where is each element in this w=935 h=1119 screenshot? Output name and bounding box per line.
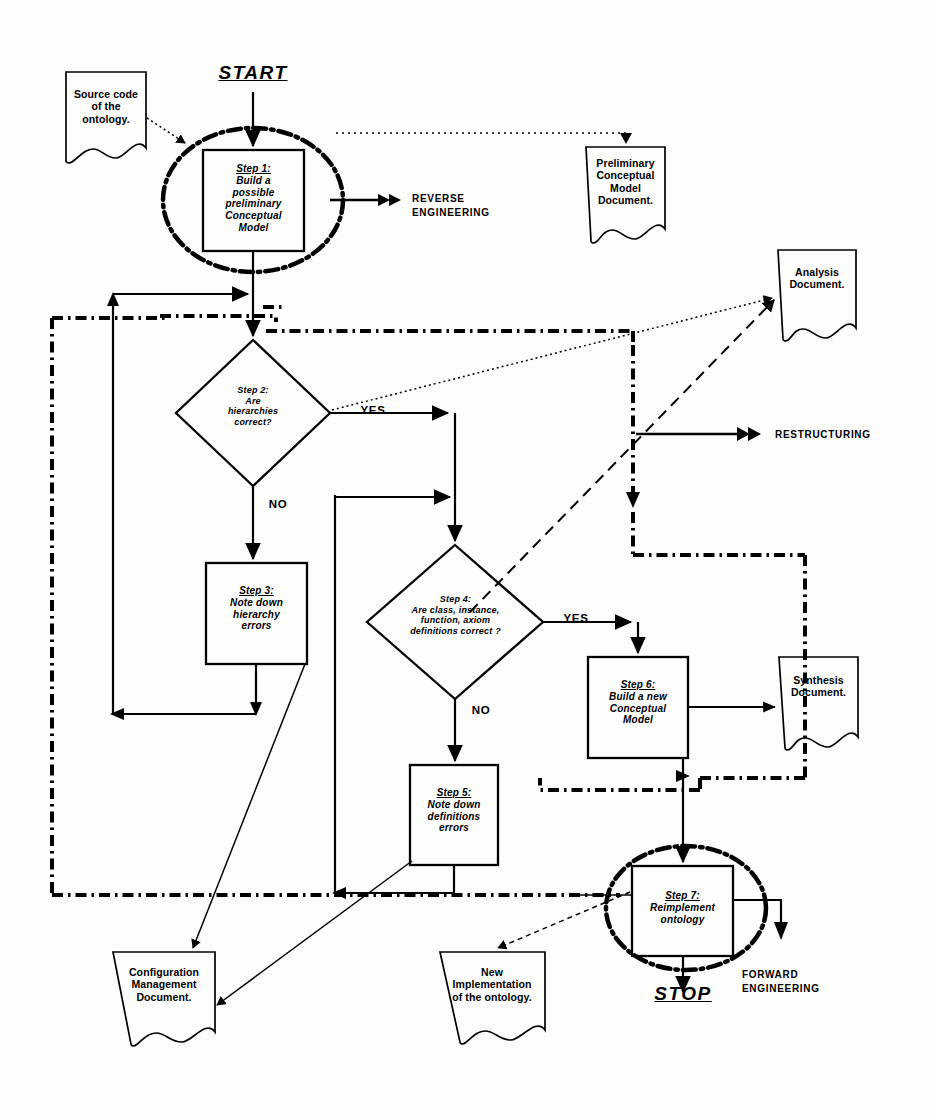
step2-heading: Step 2: — [237, 385, 268, 395]
step3-text: Step 3: Note down hierarchy errors — [206, 585, 307, 632]
link-step7-newimpl — [498, 892, 630, 948]
doc-synthesis — [779, 657, 858, 750]
branch-step2-yes: YES — [353, 404, 393, 418]
doc-source-code-text: Source code of the ontology. — [66, 88, 146, 125]
bus-top-main — [160, 316, 276, 322]
doc-new-implementation-text: New Implementation of the ontology. — [438, 966, 546, 1003]
start-label: START — [198, 62, 308, 84]
step7-body: Reimplement ontology — [650, 902, 715, 925]
step3-heading: Step 3: — [239, 585, 274, 596]
phase-restructuring: RESTRUCTURING — [775, 428, 925, 442]
step2-body: Are hierarchies correct? — [228, 396, 278, 427]
step1-body: Build a possible preliminary Conceptual … — [225, 175, 281, 233]
flow-step1-preliminary-arrow — [620, 133, 632, 144]
phase-reverse-engineering: REVERSE ENGINEERING — [412, 192, 542, 219]
flowchart-vectors — [0, 0, 935, 1119]
step1-text: Step 1: Build a possible preliminary Con… — [203, 163, 304, 234]
flowchart-canvas: START STOP Step 1: Build a possible prel… — [0, 0, 935, 1119]
arrowhead-reverse-b — [389, 194, 401, 206]
phase-reverse-line2: ENGINEERING — [412, 207, 490, 218]
phase-forward-engineering: FORWARD ENGINEERING — [742, 968, 872, 995]
link-step4-analysis — [470, 300, 774, 612]
step5-body: Note down definitions errors — [428, 799, 481, 834]
step3-body: Note down hierarchy errors — [230, 597, 283, 632]
branch-step4-yes: YES — [556, 612, 596, 626]
step1-heading: Step 1: — [236, 163, 271, 174]
step7-heading: Step 7: — [665, 890, 700, 901]
step7-text: Step 7: Reimplement ontology — [632, 890, 733, 925]
doc-analysis-text: Analysis Document. — [778, 266, 856, 291]
edge-forward-arrow — [774, 922, 788, 940]
link-source-code-scope — [147, 118, 185, 143]
step6-body: Build a new Conceptual Model — [609, 691, 667, 726]
doc-configuration-text: Configuration Management Document. — [113, 966, 215, 1003]
phase-forward-line1: FORWARD — [742, 969, 798, 980]
arrowhead-restructuring-b — [748, 427, 761, 441]
link-step3-config — [193, 664, 305, 948]
branch-step2-no: NO — [258, 498, 298, 512]
step2-text: Step 2: Are hierarchies correct? — [193, 385, 313, 427]
step4-body: Are class, instance, function, axiom def… — [410, 605, 501, 636]
phase-reverse-line1: REVERSE — [412, 193, 465, 204]
phase-forward-line2: ENGINEERING — [742, 983, 820, 994]
arrowhead-reverse-a — [378, 194, 390, 206]
branch-step4-no: NO — [461, 704, 501, 718]
phase-restructuring-line1: RESTRUCTURING — [775, 429, 871, 440]
link-step2-analysis — [332, 298, 772, 410]
step6-heading: Step 6: — [621, 679, 656, 690]
step6-text: Step 6: Build a new Conceptual Model — [588, 679, 688, 726]
link-step5-config — [217, 861, 412, 1005]
doc-preliminary-text: Preliminary Conceptual Model Document. — [586, 157, 665, 207]
doc-analysis — [778, 250, 856, 341]
doc-synthesis-text: Synthesis Document. — [779, 674, 858, 699]
stop-label: STOP — [628, 983, 738, 1005]
step5-heading: Step 5: — [437, 787, 472, 798]
step4-text: Step 4: Are class, instance, function, a… — [383, 594, 528, 636]
edge-forward-phase — [733, 900, 781, 930]
step4-heading: Step 4: — [440, 594, 471, 604]
step5-text: Step 5: Note down definitions errors — [408, 787, 500, 834]
bus-right-spine-arrow — [626, 492, 640, 508]
